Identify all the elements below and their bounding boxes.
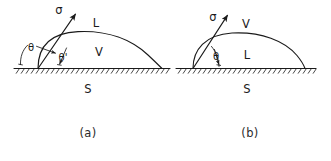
theta-label-a: θ [28,42,34,53]
sigma-label-b: σ [209,10,216,24]
substrate-hatching-a [16,69,169,74]
panel-b: σ θ V L S (b) [176,10,316,140]
phase-label-vapor-b: V [242,17,250,31]
panel-a: σ θ θ' L V S (a) [14,3,170,140]
theta-prime-label-a: θ' [59,52,68,63]
phase-label-liquid-b: L [244,48,251,62]
substrate-hatching-b [178,69,316,74]
diagram-canvas: σ θ θ' L V S (a) [0,0,331,161]
substrate-baseline-b [176,69,316,74]
phase-label-liquid-a: L [93,16,100,30]
phase-label-solid-a: S [84,82,91,96]
theta-arc-a [19,45,56,65]
theta-label-b: θ [213,51,219,62]
sigma-vector-a [38,14,75,68]
substrate-baseline-a [14,69,170,74]
phase-label-vapor-a: V [95,45,103,59]
panel-caption-a: (a) [79,126,96,140]
panel-caption-b: (b) [241,126,258,140]
phase-label-solid-b: S [243,82,250,96]
sigma-label-a: σ [55,3,62,17]
contact-angle-figure: σ θ θ' L V S (a) [0,0,331,161]
